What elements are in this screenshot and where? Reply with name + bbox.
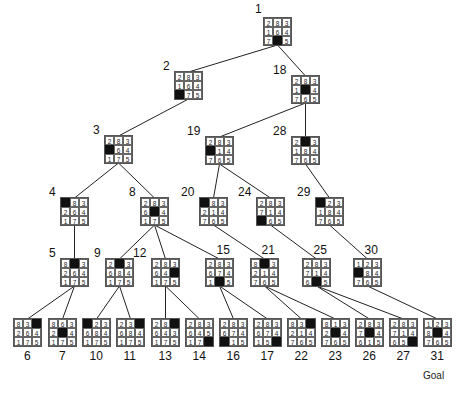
puzzle-tile: 3 — [224, 137, 233, 146]
puzzle-tile: 4 — [161, 328, 170, 337]
puzzle-tile: 5 — [79, 216, 88, 225]
puzzle-tile: 5 — [193, 90, 202, 99]
puzzle-tile: 1 — [260, 268, 269, 277]
puzzle-board: 86324175 — [48, 318, 77, 347]
node-number-label: 9 — [94, 246, 101, 260]
puzzle-tile: 1 — [106, 277, 115, 286]
puzzle-tile: 7 — [92, 337, 101, 346]
node-number-label: 28 — [273, 124, 286, 138]
node-number-label: 25 — [314, 243, 327, 257]
puzzle-tile: 6 — [266, 216, 275, 225]
puzzle-tile: 8 — [61, 259, 70, 268]
puzzle-tile: 6 — [303, 277, 312, 286]
puzzle-tile: 3 — [79, 259, 88, 268]
puzzle-tile: 6 — [273, 27, 282, 36]
puzzle-tile: 7 — [303, 268, 312, 277]
puzzle-tile: 4 — [67, 328, 76, 337]
puzzle-tile: 4 — [275, 207, 284, 216]
puzzle-tile: 5 — [374, 337, 383, 346]
puzzle-tile: 3 — [408, 319, 417, 328]
puzzle-board: 28367415 — [205, 258, 234, 287]
puzzle-tile: 7 — [58, 337, 67, 346]
puzzle-tile: 2 — [61, 268, 70, 277]
puzzle-tile: 1 — [206, 277, 215, 286]
puzzle-tile: 6 — [141, 207, 150, 216]
puzzle-tile: 8 — [184, 72, 193, 81]
puzzle-tile: 6 — [23, 328, 32, 337]
puzzle-tile: 8 — [399, 319, 408, 328]
puzzle-board: 28643175 — [151, 318, 180, 347]
puzzle-tile: 5 — [123, 154, 132, 163]
puzzle-tile: 2 — [322, 328, 331, 337]
puzzle-tile: 6 — [117, 328, 126, 337]
puzzle-tile: 4 — [124, 268, 133, 277]
puzzle-tile: 7 — [229, 328, 238, 337]
puzzle-tile: 4 — [282, 27, 291, 36]
puzzle-tile: 8 — [229, 319, 238, 328]
tree-edge — [271, 225, 317, 259]
puzzle-tile: 1 — [424, 319, 433, 328]
puzzle-tile: 6 — [83, 328, 92, 337]
puzzle-tile: 8 — [215, 137, 224, 146]
puzzle-tile: 3 — [218, 198, 227, 207]
tree-edge — [120, 286, 131, 319]
blank-tile — [32, 319, 41, 328]
puzzle-tile: 2 — [61, 207, 70, 216]
puzzle-tile: 3 — [374, 319, 383, 328]
blank-tile — [115, 259, 124, 268]
puzzle-tile: 2 — [14, 328, 23, 337]
puzzle-tile: 2 — [105, 136, 114, 145]
node-number-label: 22 — [295, 349, 308, 363]
puzzle-tile: 5 — [101, 337, 110, 346]
puzzle-tile: 6 — [254, 328, 263, 337]
puzzle-tile: 1 — [292, 85, 301, 94]
puzzle-tile: 8 — [288, 319, 297, 328]
puzzle-tile: 8 — [209, 198, 218, 207]
node-number-label: 27 — [397, 349, 410, 363]
tree-edge — [317, 286, 404, 319]
puzzle-board: 28314765 — [205, 136, 234, 165]
puzzle-tile: 8 — [215, 259, 224, 268]
puzzle-tile: 3 — [334, 198, 343, 207]
puzzle-tile: 2 — [92, 319, 101, 328]
puzzle-board: 28371465 — [256, 197, 285, 226]
puzzle-tile: 3 — [269, 259, 278, 268]
puzzle-tile: 7 — [251, 277, 260, 286]
puzzle-tile: 7 — [115, 277, 124, 286]
puzzle-tile: 2 — [292, 76, 301, 85]
puzzle-tile: 3 — [159, 198, 168, 207]
tree-edge — [63, 286, 75, 319]
puzzle-tile: 4 — [272, 328, 281, 337]
puzzle-board: 28316475 — [263, 17, 292, 46]
blank-tile — [135, 319, 144, 328]
blank-tile — [433, 328, 442, 337]
blank-tile — [331, 328, 340, 337]
puzzle-tile: 1 — [141, 216, 150, 225]
puzzle-tile: 8 — [263, 319, 272, 328]
puzzle-tile: 8 — [161, 259, 170, 268]
tree-edge — [28, 286, 75, 319]
puzzle-tile: 5 — [321, 277, 330, 286]
puzzle-tile: 6 — [356, 337, 365, 346]
puzzle-board: 28364175 — [151, 258, 180, 287]
puzzle-tile: 1 — [61, 277, 70, 286]
puzzle-tile: 8 — [301, 146, 310, 155]
puzzle-tile: 4 — [135, 328, 144, 337]
puzzle-tile: 1 — [83, 337, 92, 346]
tree-edge — [119, 99, 189, 136]
puzzle-tile: 7 — [354, 277, 363, 286]
node-number-label: 8 — [129, 185, 136, 199]
blank-tile — [58, 328, 67, 337]
puzzle-board: 12384765 — [423, 318, 452, 347]
puzzle-tile: 7 — [292, 155, 301, 164]
puzzle-tile: 4 — [321, 268, 330, 277]
puzzle-tile: 7 — [263, 328, 272, 337]
puzzle-tile: 5 — [32, 337, 41, 346]
puzzle-tile: 5 — [135, 337, 144, 346]
puzzle-tile: 7 — [288, 337, 297, 346]
puzzle-tile: 2 — [152, 319, 161, 328]
puzzle-tile: 1 — [312, 268, 321, 277]
puzzle-tile: 8 — [251, 259, 260, 268]
node-number-label: 7 — [59, 349, 66, 363]
puzzle-tile: 8 — [161, 319, 170, 328]
